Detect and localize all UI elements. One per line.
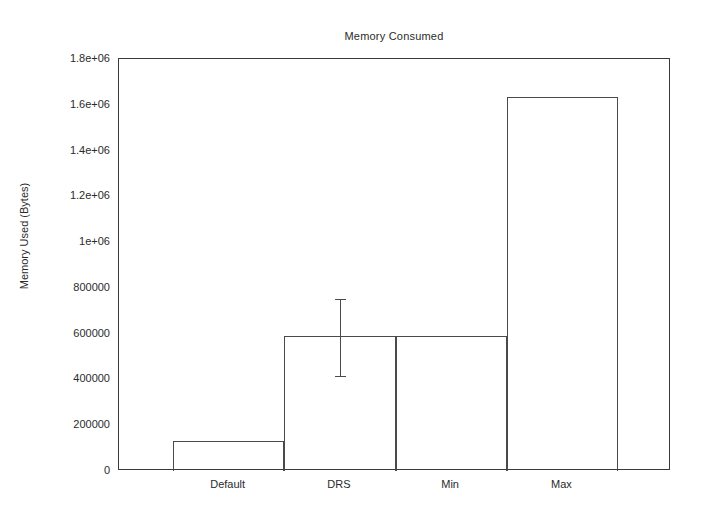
x-tick-label: DRS	[327, 478, 350, 490]
error-bar-cap-top	[335, 299, 346, 300]
y-tick-label: 800000	[73, 281, 110, 293]
bar-min	[396, 336, 507, 471]
y-tick-label: 1.6e+06	[70, 98, 110, 110]
x-tick-label: Min	[441, 478, 459, 490]
y-axis-tick-labels: 02000004000006000008000001e+061.2e+061.4…	[0, 0, 110, 520]
chart-screenshot: Memory Consumed Memory Used (Bytes) 0200…	[0, 0, 705, 520]
chart-title: Memory Consumed	[118, 30, 670, 42]
y-tick-label: 1e+06	[79, 235, 110, 247]
y-tick-label: 200000	[73, 418, 110, 430]
y-tick-label: 1.8e+06	[70, 52, 110, 64]
bar-max	[507, 97, 618, 471]
plot-area	[118, 58, 670, 470]
y-tick-label: 600000	[73, 327, 110, 339]
y-tick-label: 0	[104, 464, 110, 476]
y-tick-label: 1.4e+06	[70, 144, 110, 156]
y-tick-label: 400000	[73, 372, 110, 384]
y-tick-label: 1.2e+06	[70, 189, 110, 201]
error-bar-cap-bottom	[335, 376, 346, 377]
bar-default	[173, 441, 284, 471]
x-tick-label: Default	[210, 478, 245, 490]
error-bar-stem	[340, 299, 341, 377]
x-tick-label: Max	[551, 478, 572, 490]
